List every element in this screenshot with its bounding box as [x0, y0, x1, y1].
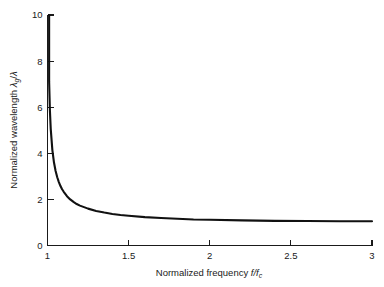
- y-tick-label: 4: [37, 148, 42, 159]
- plot-area-svg: 0246810 11.522.53 Normalized frequency f…: [0, 0, 384, 287]
- y-tick-label: 6: [37, 102, 42, 113]
- x-axis-title: Normalized frequency f/fc: [156, 267, 263, 279]
- x-tick-label: 2.5: [284, 250, 297, 261]
- x-tick-label: 2: [207, 250, 212, 261]
- x-axis-ticks: [48, 240, 373, 246]
- x-tick-label: 1.5: [122, 250, 135, 261]
- x-tick-label: 1: [45, 250, 50, 261]
- y-axis-tick-labels: 0246810: [32, 9, 43, 251]
- y-tick-label: 2: [37, 194, 42, 205]
- y-tick-label: 0: [37, 240, 42, 251]
- x-axis-tick-labels: 11.522.53: [45, 250, 375, 261]
- chart-figure: 0246810 11.522.53 Normalized frequency f…: [0, 0, 384, 287]
- x-tick-label: 3: [369, 250, 374, 261]
- y-axis-title: Normalized wavelength λg/λ: [8, 71, 21, 189]
- data-curve: [49, 15, 372, 221]
- y-tick-label: 10: [32, 9, 43, 20]
- y-tick-label: 8: [37, 56, 42, 67]
